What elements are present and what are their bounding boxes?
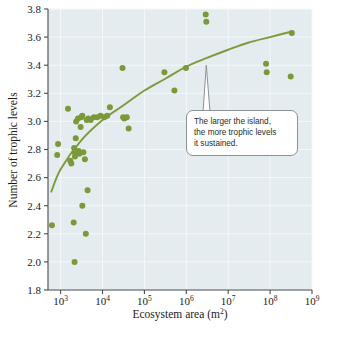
- svg-text:106: 106: [179, 294, 194, 307]
- data-point: [126, 125, 132, 131]
- data-point: [120, 65, 126, 71]
- figure-container: 1.82.02.22.42.62.83.03.23.43.63.8 103104…: [0, 0, 338, 338]
- svg-text:108: 108: [263, 294, 278, 307]
- data-point: [65, 106, 71, 112]
- svg-text:105: 105: [137, 294, 152, 307]
- svg-text:3.4: 3.4: [27, 59, 41, 71]
- svg-text:2.4: 2.4: [27, 200, 41, 212]
- data-point: [107, 104, 113, 110]
- svg-text:3.2: 3.2: [27, 87, 41, 99]
- data-point: [79, 203, 85, 209]
- svg-text:109: 109: [305, 294, 320, 307]
- callout-line-2: the more trophic levels: [194, 127, 291, 138]
- svg-text:3.6: 3.6: [27, 31, 41, 43]
- data-point: [73, 135, 79, 141]
- data-point: [80, 149, 86, 155]
- data-point: [72, 259, 78, 265]
- svg-text:2.2: 2.2: [27, 228, 41, 240]
- data-point: [55, 141, 61, 147]
- data-point: [171, 87, 177, 93]
- data-point: [203, 12, 209, 18]
- data-point: [85, 187, 91, 193]
- data-point: [124, 114, 130, 120]
- data-point: [161, 69, 167, 75]
- svg-text:107: 107: [221, 294, 236, 307]
- y-axis-ticks: [44, 9, 48, 290]
- data-point: [79, 113, 85, 119]
- callout-line-3: it sustained.: [194, 138, 291, 149]
- y-axis-tick-labels: 1.82.02.22.42.62.83.03.23.43.63.8: [27, 3, 41, 296]
- data-point: [288, 73, 294, 79]
- data-point: [203, 19, 209, 25]
- svg-text:2.6: 2.6: [27, 171, 41, 183]
- data-point: [183, 65, 189, 71]
- svg-text:3.0: 3.0: [27, 115, 41, 127]
- data-point: [68, 161, 74, 167]
- data-point: [54, 152, 60, 158]
- data-point: [83, 231, 89, 237]
- data-point: [78, 124, 84, 130]
- svg-text:1.8: 1.8: [27, 284, 41, 296]
- x-axis-tick-labels: 103104105106107108109: [53, 294, 319, 307]
- x-axis-title: Ecosystem area (m2): [132, 307, 227, 321]
- data-point: [71, 220, 77, 226]
- data-point: [49, 222, 55, 228]
- svg-text:2.0: 2.0: [27, 256, 41, 268]
- annotation-callout: The larger the island, the more trophic …: [186, 110, 298, 156]
- data-point: [104, 113, 110, 119]
- svg-text:2.8: 2.8: [27, 143, 41, 155]
- callout-line-1: The larger the island,: [194, 116, 291, 127]
- svg-text:104: 104: [95, 294, 110, 307]
- data-point: [263, 61, 269, 67]
- data-point: [289, 30, 295, 36]
- scatter-plot: 1.82.02.22.42.62.83.03.23.43.63.8 103104…: [0, 0, 338, 338]
- svg-text:3.8: 3.8: [27, 3, 41, 15]
- data-point: [82, 156, 88, 162]
- svg-text:103: 103: [53, 294, 68, 307]
- y-axis-title: Number of trophic levels: [7, 92, 20, 208]
- data-point: [264, 69, 270, 75]
